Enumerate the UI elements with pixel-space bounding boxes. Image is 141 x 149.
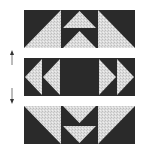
down-arrow-icon bbox=[10, 88, 14, 104]
quilt-diagram bbox=[0, 0, 141, 149]
up-arrow-icon bbox=[10, 50, 14, 65]
top-row bbox=[24, 10, 135, 48]
bottom-row bbox=[24, 106, 135, 144]
middle-row bbox=[24, 58, 135, 96]
